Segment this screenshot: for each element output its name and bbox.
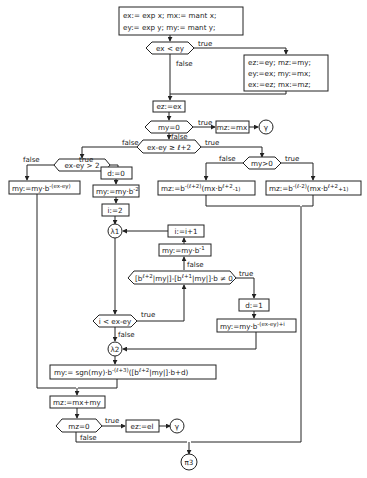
svg-text:true: true <box>79 156 93 164</box>
svg-text:my:=my·b-2: my:=my·b-2 <box>96 186 139 196</box>
svg-text:mz:=mx+my: mz:=mx+my <box>53 398 101 407</box>
decision-my-eq-0: my=0 <box>145 121 193 133</box>
mz-mx-box: mz:=mx <box>216 121 249 133</box>
my-shift-1-box: my:=my·b-1 <box>159 244 211 256</box>
decision-ex-lt-ey: ex < ey <box>146 42 194 54</box>
svg-text:true: true <box>198 119 212 127</box>
svg-text:ez:=ex: ez:=ex <box>156 102 182 111</box>
svg-text:ex-ey ≥ ℓ+2: ex-ey ≥ ℓ+2 <box>147 143 191 152</box>
svg-text:true: true <box>205 139 219 147</box>
connector-pi3: π3 <box>181 454 197 470</box>
swap-box: ez:=ey; mz:=my; ey:=ex; my:=mx; ex:=ez; … <box>244 55 328 91</box>
svg-text:λ1: λ1 <box>111 227 120 236</box>
svg-text:false: false <box>187 261 204 269</box>
my-shift-diff-box: my:=my·b-(ex-ey) <box>9 181 80 194</box>
my-shift-diff-i-box: my:=my·b-(ex-ey)+i <box>217 319 296 332</box>
svg-text:true: true <box>285 155 299 163</box>
svg-text:false: false <box>219 155 236 163</box>
ez-el-box: ez:=el <box>126 420 159 432</box>
d-0-box: d:=0 <box>101 167 132 179</box>
connector-lambda2: λ2 <box>108 342 122 356</box>
mz-pos-box: mz:=b-(ℓ-2)(mx·bℓ+2+1) <box>266 181 361 195</box>
decision-i-lt-diff: i < ex-ey <box>93 315 137 327</box>
svg-text:ex < ey: ex < ey <box>156 44 185 53</box>
svg-text:γ: γ <box>264 123 269 132</box>
terminal-gamma-1: γ <box>259 120 273 134</box>
edge-label-true: true <box>198 40 212 48</box>
svg-text:γ: γ <box>175 422 180 431</box>
svg-text:d:=1: d:=1 <box>245 301 263 310</box>
svg-text:mz:=mx: mz:=mx <box>217 123 248 132</box>
svg-text:ex:=ez; mx:=mz;: ex:=ez; mx:=mz; <box>248 80 311 89</box>
edge-label-false: false <box>176 60 193 68</box>
svg-text:i < ex-ey: i < ex-ey <box>99 317 132 326</box>
svg-text:false: false <box>118 331 135 339</box>
svg-text:false: false <box>122 139 139 147</box>
decision-my-gt-0: my>0 <box>243 157 281 169</box>
svg-text:true: true <box>239 270 253 278</box>
connector-lambda1: λ1 <box>108 224 122 238</box>
svg-text:false: false <box>80 434 97 442</box>
svg-text:false: false <box>23 156 40 164</box>
svg-text:true: true <box>105 417 119 425</box>
svg-text:λ2: λ2 <box>111 345 120 354</box>
svg-text:true: true <box>141 311 155 319</box>
svg-text:my:=my·b-1: my:=my·b-1 <box>162 245 205 255</box>
my-shift-2-box: my:=my·b-2 <box>93 185 139 197</box>
terminal-gamma-2: γ <box>170 419 184 433</box>
flowchart: ex:= exp x; mx:= mant x; ey:= exp y; my:… <box>0 0 367 478</box>
d-1-box: d:=1 <box>239 299 269 311</box>
decision-diff-ge: ex-ey ≥ ℓ+2 <box>137 140 201 153</box>
decision-mz-eq-0: mz=0 <box>56 419 102 432</box>
svg-text:ex:= exp x; mx:= mant x;: ex:= exp x; mx:= mant x; <box>123 11 216 20</box>
svg-text:my>0: my>0 <box>251 159 273 168</box>
svg-text:i:=2: i:=2 <box>107 206 122 215</box>
svg-text:i:=i+1: i:=i+1 <box>174 227 197 236</box>
ez-ex-box: ez:=ex <box>153 101 185 112</box>
svg-text:mz=0: mz=0 <box>68 422 90 431</box>
mz-sum-box: mz:=mx+my <box>50 396 105 408</box>
svg-text:my=0: my=0 <box>158 123 180 132</box>
i-2-box: i:=2 <box>102 204 129 216</box>
init-box: ex:= exp x; mx:= mant x; ey:= exp y; my:… <box>119 7 243 35</box>
svg-text:ez:=ey; mz:=my;: ez:=ey; mz:=my; <box>248 58 311 67</box>
decision-bracket-nonzero: [bℓ+2|my|]-[bℓ+1|my|]·b ≠ 0 <box>128 271 236 284</box>
svg-text:ey:= exp y; my:= mant y;: ey:= exp y; my:= mant y; <box>123 23 215 32</box>
mz-neg-box: mz:=b-(ℓ+2)(mx·bℓ+2-1) <box>158 181 255 195</box>
svg-text:π3: π3 <box>185 458 194 467</box>
svg-text:ez:=el: ez:=el <box>130 422 153 431</box>
i-inc-box: i:=i+1 <box>168 225 204 237</box>
final-my-box: my:= sgn(my)·b-(ℓ+3)([bℓ+2|my|]·b+d) <box>50 365 216 379</box>
svg-text:d:=0: d:=0 <box>107 169 125 178</box>
svg-text:ey:=ex; my:=mx;: ey:=ex; my:=mx; <box>248 69 311 78</box>
